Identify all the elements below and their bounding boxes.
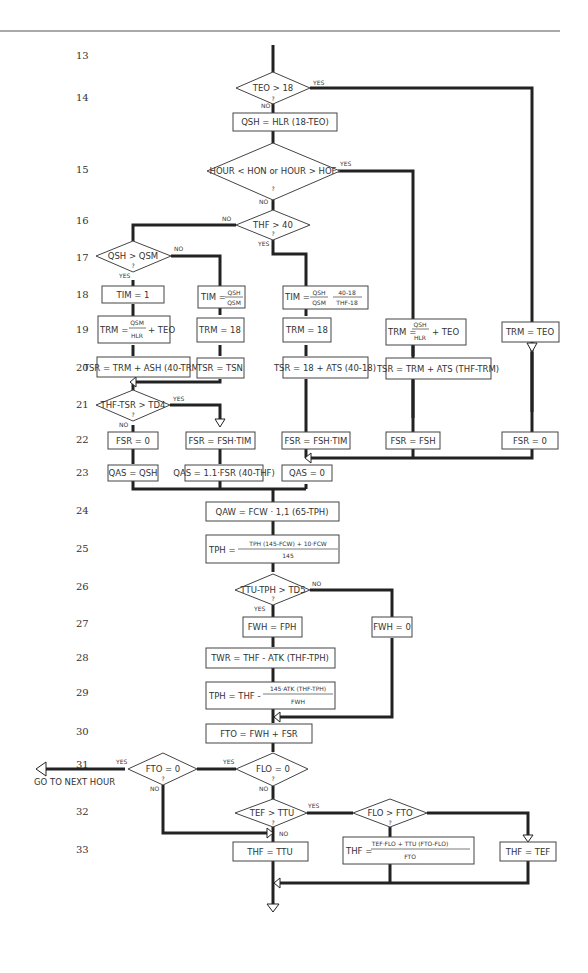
svg-text:FLO > FTO: FLO > FTO — [367, 808, 412, 818]
svg-text:+ TEO: + TEO — [432, 327, 459, 337]
box-23-a: QAS = QSH — [108, 465, 158, 481]
svg-text:?: ? — [161, 775, 164, 782]
svg-text:145·ATK (THF-TPH): 145·ATK (THF-TPH) — [270, 685, 326, 692]
decision-15: HOUR < HON or HOUR > HOF ? YES NO — [207, 143, 351, 205]
svg-text:NO: NO — [261, 102, 270, 109]
svg-text:NO: NO — [119, 421, 128, 428]
decision-17: QSH > QSM ? NO YES — [96, 241, 183, 279]
step-25: 25 — [76, 543, 89, 554]
step-22: 22 — [76, 434, 89, 445]
svg-text:TRM = 18: TRM = 18 — [285, 325, 328, 335]
decision-32-tef: TEF > TTU ? YES NO — [235, 799, 319, 837]
svg-text:TSR = TSN: TSR = TSN — [196, 363, 243, 373]
step-26: 26 — [76, 581, 89, 592]
svg-text:THF = TTU: THF = TTU — [246, 847, 292, 857]
svg-text:QSM: QSM — [130, 319, 144, 326]
box-18-a: TIM = 1 — [102, 286, 164, 303]
box-20-c: TSR = 18 + ATS (40-18) — [273, 357, 376, 378]
svg-text:YES: YES — [118, 272, 130, 279]
svg-text:HLR: HLR — [131, 332, 143, 339]
svg-text:THF > 40: THF > 40 — [252, 220, 293, 230]
svg-text:FWH = 0: FWH = 0 — [373, 622, 411, 632]
step-16: 16 — [76, 215, 89, 226]
box-20-a: TSR = TRM + ASH (40-TRM) — [83, 357, 202, 377]
svg-text:TRM = TEO: TRM = TEO — [505, 327, 555, 337]
arrow-down-icon — [523, 835, 533, 842]
svg-text:TRM =: TRM = — [387, 327, 416, 337]
box-19-b: TRM = 18 — [197, 318, 244, 342]
decision-26: TTU-TPH > TD5 ? NO YES — [235, 574, 321, 612]
svg-text:TPH =: TPH = — [208, 545, 236, 555]
box-19-d: TRM = QSH HLR + TEO — [386, 319, 466, 345]
svg-text:FSR = FSH·TIM: FSR = FSH·TIM — [285, 436, 348, 446]
box-27-b: FWH = 0 — [372, 617, 412, 637]
arrow-left-icon — [274, 712, 280, 722]
box-27-a: FWH = FPH — [243, 617, 302, 637]
svg-text:NO: NO — [150, 785, 159, 792]
svg-text:TIM =: TIM = — [284, 292, 310, 302]
arrow-down-icon — [527, 343, 537, 352]
svg-text:THF-TSR > TD4: THF-TSR > TD4 — [100, 400, 166, 410]
box-33-c: THF = TEF — [500, 842, 556, 861]
svg-text:FTO = 0: FTO = 0 — [146, 764, 181, 774]
box-24: QAW = FCW · 1,1 (65-TPH) — [206, 502, 339, 521]
svg-text:QSH: QSH — [312, 289, 325, 296]
svg-text:TPH (145-FCW) + 10·FCW: TPH (145-FCW) + 10·FCW — [248, 540, 327, 547]
svg-text:THF = TEF: THF = TEF — [505, 847, 551, 857]
decision-31-fto: FTO = 0 ? YES NO — [115, 753, 197, 792]
svg-text:HLR: HLR — [414, 334, 426, 341]
flowchart: 13 14 15 16 17 18 19 20 21 22 23 24 25 2… — [0, 0, 588, 973]
go-to-next-hour-label: GO TO NEXT HOUR — [34, 777, 115, 787]
decision-16: THF > 40 ? NO YES — [222, 210, 310, 247]
step-32: 32 — [76, 806, 89, 817]
svg-text:NO: NO — [279, 830, 288, 837]
box-19-a: TRM = QSM HLR + TEO — [98, 316, 175, 343]
svg-text:FTO: FTO — [404, 853, 416, 860]
step-28: 28 — [76, 652, 89, 663]
step-numbers: 13 14 15 16 17 18 19 20 21 22 23 24 25 2… — [76, 50, 89, 855]
step-18: 18 — [76, 289, 89, 300]
svg-text:TEF·FLO + TTU (FTO-FLO): TEF·FLO + TTU (FTO-FLO) — [371, 840, 449, 847]
svg-text:FWH: FWH — [291, 698, 305, 705]
svg-text:QAS = QSH: QAS = QSH — [109, 468, 158, 478]
box-22-b: FSR = FSH·TIM — [186, 432, 255, 449]
svg-text:YES: YES — [339, 160, 351, 167]
step-17: 17 — [76, 252, 89, 263]
svg-text:?: ? — [388, 819, 391, 826]
svg-text:FWH = FPH: FWH = FPH — [248, 622, 297, 632]
svg-text:?: ? — [271, 819, 274, 826]
box-14: QSH = HLR (18-TEO) — [233, 113, 337, 131]
box-33-a: THF = TTU — [233, 842, 308, 861]
svg-text:NO: NO — [259, 198, 268, 205]
svg-text:NO: NO — [222, 215, 231, 222]
svg-text:40-18: 40-18 — [338, 289, 356, 296]
svg-text:TIM =: TIM = — [200, 292, 226, 302]
svg-text:TWR = THF - ATK (THF-TPH): TWR = THF - ATK (THF-TPH) — [210, 653, 329, 663]
svg-text:?: ? — [271, 775, 274, 782]
svg-text:QAW = FCW · 1,1 (65-TPH): QAW = FCW · 1,1 (65-TPH) — [216, 507, 329, 517]
svg-text:YES: YES — [307, 802, 319, 809]
svg-text:QSH = HLR (18-TEO): QSH = HLR (18-TEO) — [241, 117, 329, 127]
svg-text:?: ? — [131, 262, 134, 269]
svg-text:NO: NO — [259, 785, 268, 792]
box-22-a: FSR = 0 — [108, 432, 158, 449]
arrow-left-icon — [274, 878, 280, 888]
svg-text:NO: NO — [174, 245, 183, 252]
svg-text:YES: YES — [115, 758, 127, 765]
svg-text:QSH: QSH — [227, 289, 240, 296]
svg-text:QAS = 1.1·FSR (40-THF): QAS = 1.1·FSR (40-THF) — [173, 468, 275, 478]
box-18-c: TIM = QSH QSM 40-18 THF-18 — [283, 286, 368, 309]
svg-text:QSH: QSH — [413, 321, 426, 328]
svg-text:TSR = TRM + ATS (THF-TRM): TSR = TRM + ATS (THF-TRM) — [376, 364, 499, 374]
arrow-left-icon — [36, 762, 46, 776]
box-22-e: FSR = 0 — [502, 432, 558, 449]
svg-text:FLO = 0: FLO = 0 — [256, 764, 290, 774]
step-13: 13 — [76, 50, 89, 61]
box-25: TPH = TPH (145-FCW) + 10·FCW 145 — [206, 535, 339, 563]
box-20-b: TSR = TSN — [196, 358, 244, 378]
svg-text:FSR = FSH·TIM: FSR = FSH·TIM — [189, 436, 252, 446]
svg-text:YES: YES — [312, 79, 324, 86]
svg-text:NO: NO — [312, 580, 321, 587]
svg-text:TRM = 18: TRM = 18 — [198, 325, 241, 335]
decision-13: TEO > 18 ? YES NO — [236, 72, 324, 109]
